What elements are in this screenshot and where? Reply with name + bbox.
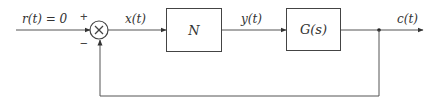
- block-g: G(s): [286, 8, 341, 51]
- intermediate-signal-label: y(t): [241, 13, 262, 25]
- block-n: N: [166, 8, 222, 52]
- input-signal-label: r(t) = 0: [22, 13, 67, 25]
- block-g-label: G(s): [300, 22, 327, 37]
- plus-sign: +: [80, 10, 88, 23]
- block-n-label: N: [188, 23, 199, 38]
- minus-sign: −: [80, 37, 88, 50]
- output-signal-label: c(t): [397, 13, 418, 25]
- error-signal-label: x(t): [125, 13, 146, 25]
